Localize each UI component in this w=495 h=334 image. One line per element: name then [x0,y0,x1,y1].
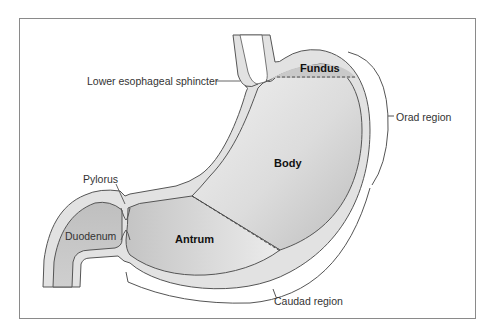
label-orad-region: Orad region [396,112,451,123]
label-pylorus: Pylorus [83,174,118,185]
label-caudad-region: Caudad region [274,296,343,307]
label-antrum: Antrum [175,234,214,245]
label-body: Body [274,158,302,169]
label-duodenum: Duodenum [65,231,116,242]
label-les: Lower esophageal sphincter [87,76,218,87]
label-fundus: Fundus [300,63,340,74]
stomach-diagram [0,0,495,334]
